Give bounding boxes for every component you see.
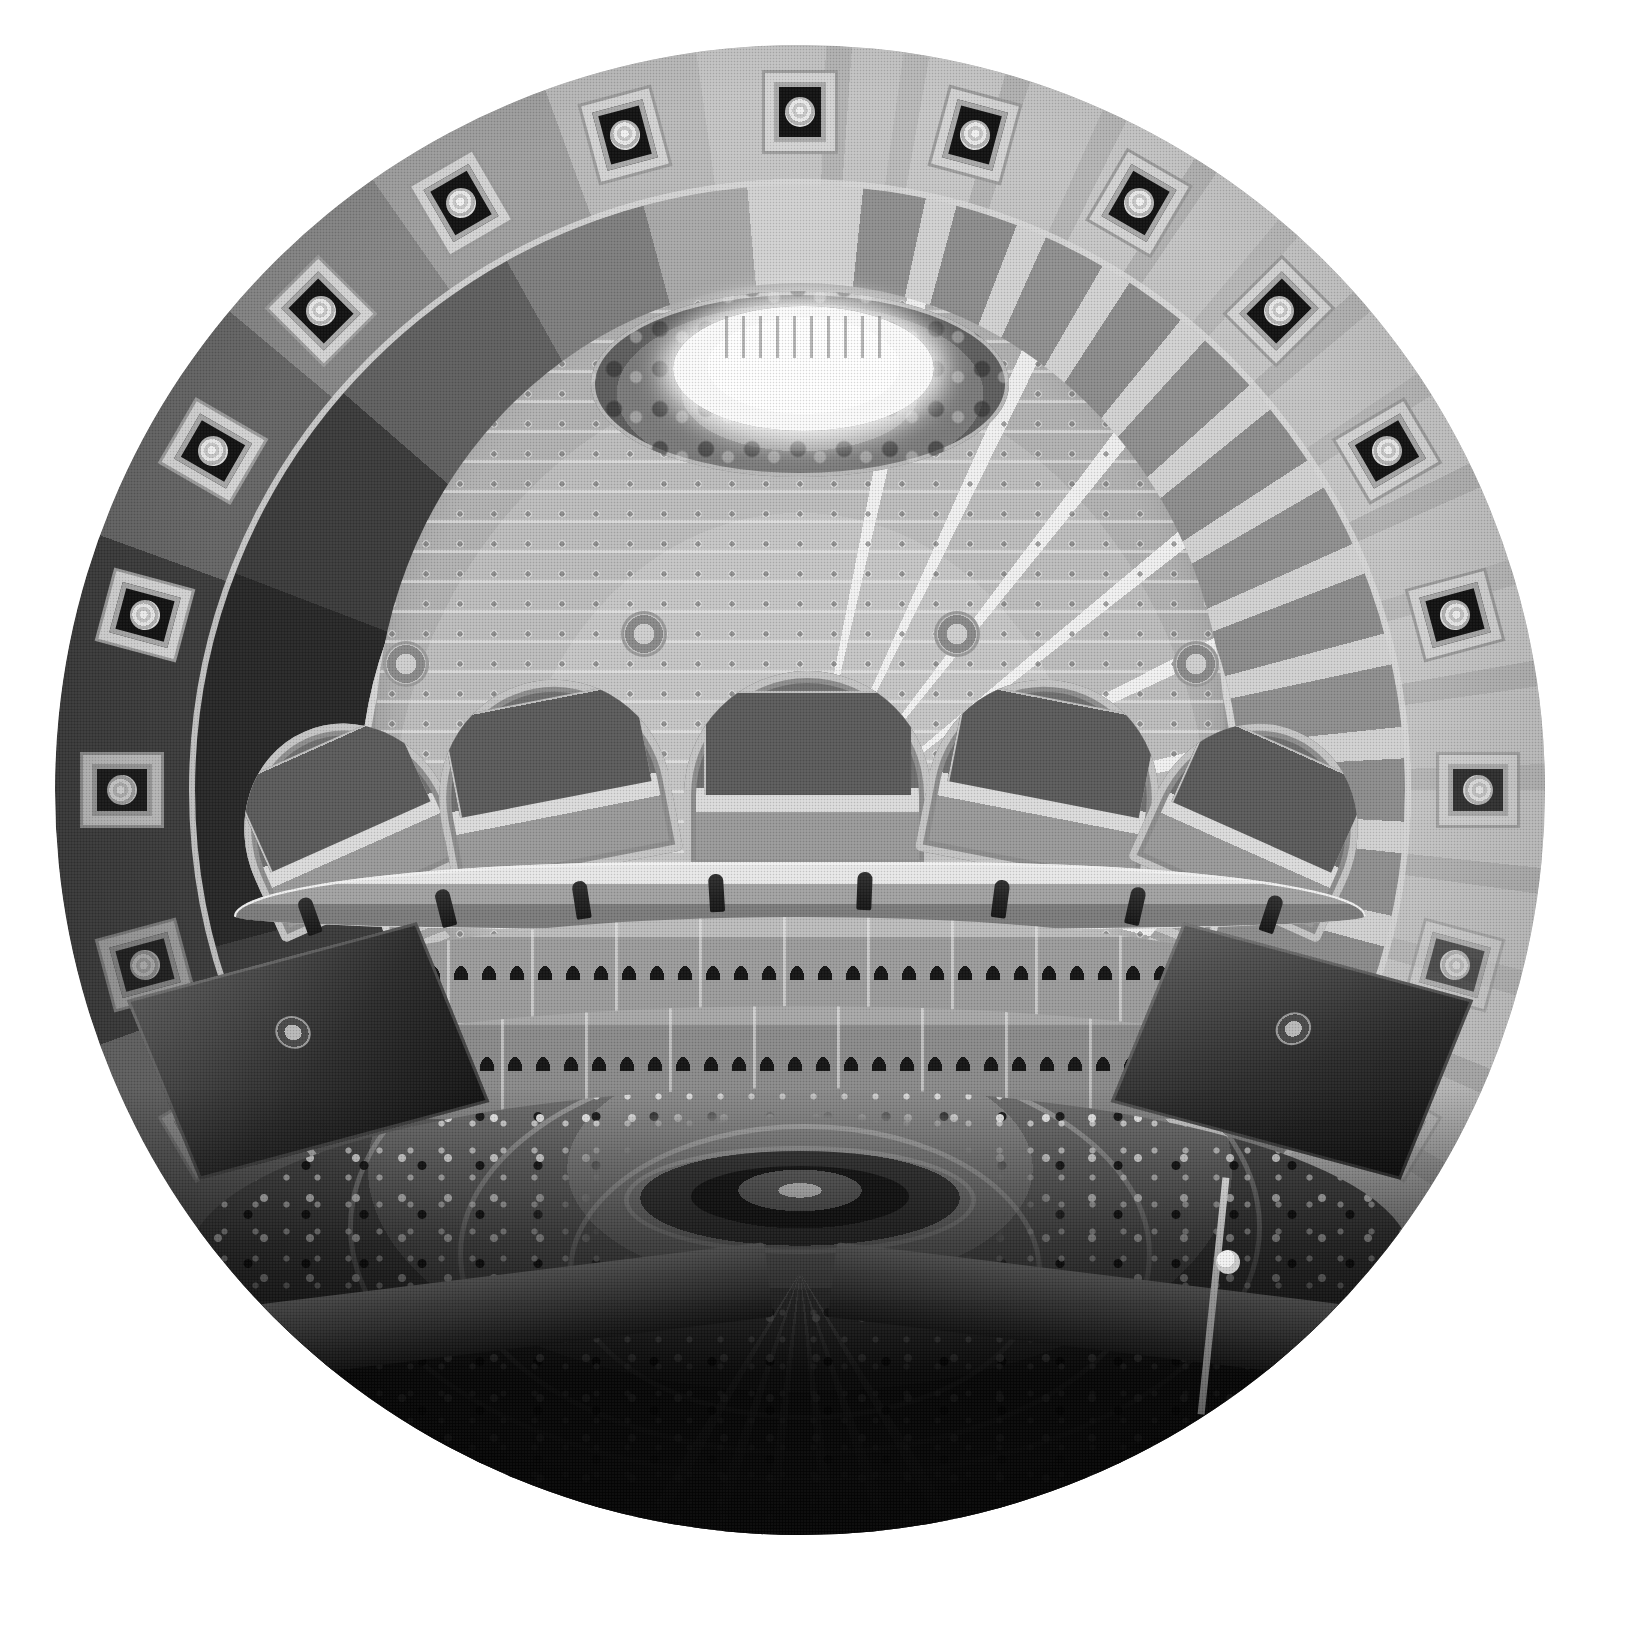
balustrade-statue bbox=[990, 879, 1010, 919]
balustrade-statue bbox=[708, 874, 725, 913]
lamp-globe-icon bbox=[1216, 1250, 1240, 1274]
photograph-page bbox=[0, 0, 1630, 1628]
balustrade-statue bbox=[571, 881, 592, 921]
fisheye-circular-photograph bbox=[55, 45, 1545, 1535]
balustrade-statue bbox=[856, 872, 872, 911]
cornice-medallion-icon bbox=[1270, 1009, 1316, 1049]
cornice-medallion-icon bbox=[271, 1012, 317, 1052]
